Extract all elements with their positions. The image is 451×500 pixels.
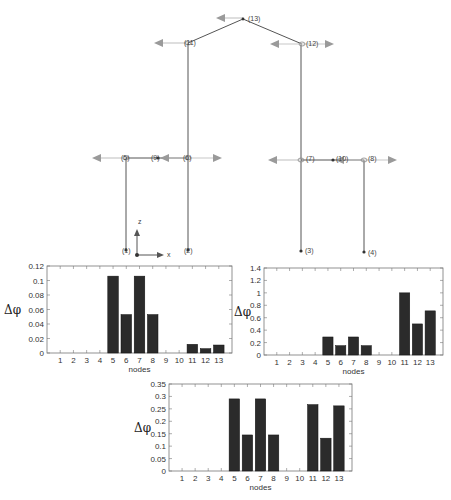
bar-node-12 [412, 324, 422, 355]
x-tick-label: 3 [206, 474, 211, 483]
x-axis-title: nodes [129, 365, 151, 374]
y-tick-label: 0.6 [250, 314, 262, 323]
frame-members [126, 19, 364, 252]
x-tick-label: 7 [351, 358, 356, 367]
y-tick-label: 0.4 [250, 326, 262, 335]
node-label-6: (6) [183, 154, 192, 162]
x-axis-label: x [167, 251, 171, 258]
bar-chart-right: 00.20.40.60.811.21.412345678910111213nod… [230, 258, 451, 376]
x-tick-label: 9 [164, 356, 169, 365]
bar-node-12 [321, 438, 331, 471]
x-tick-label: 7 [258, 474, 263, 483]
y-tick-label: 0.1 [33, 277, 45, 286]
y-tick-label: 0.1 [155, 442, 167, 451]
x-tick-label: 10 [387, 358, 396, 367]
y-tick-label: 0.05 [150, 455, 166, 464]
x-tick-label: 13 [214, 356, 223, 365]
bar-node-12 [200, 349, 211, 353]
z-axis-arrow-icon [134, 229, 140, 236]
arrow-right-icon [388, 156, 397, 164]
y-tick-label: 0.02 [28, 335, 44, 344]
y-tick-label: 0.3 [155, 392, 167, 401]
frame-structure-diagram: (1) (2) (3) (4) (5) (6) (7) (8) (9) (10)… [0, 0, 451, 262]
bar-node-6 [121, 315, 132, 353]
node-label-11: (11) [184, 39, 196, 47]
arrow-right-icon [213, 154, 222, 162]
y-tick-label: 0.8 [250, 301, 262, 310]
bar-node-6 [242, 435, 252, 471]
node-markers [124, 18, 365, 254]
bar-node-13 [425, 311, 435, 355]
bar-node-8 [268, 435, 278, 471]
x-tick-label: 13 [334, 474, 343, 483]
x-tick-label: 6 [124, 356, 129, 365]
x-tick-label: 1 [275, 358, 280, 367]
y-tick-label: 1.4 [250, 264, 262, 273]
bar-chart-bottom: 00.050.10.150.20.250.30.3512345678910111… [130, 378, 355, 500]
x-tick-label: 4 [98, 356, 103, 365]
node-label-13: (13) [248, 15, 260, 23]
node-label-2: (2) [184, 247, 193, 255]
x-tick-label: 5 [232, 474, 237, 483]
bar-node-11 [400, 293, 410, 355]
x-tick-label: 8 [364, 358, 369, 367]
bar-node-5 [229, 399, 239, 471]
y-tick-label: 0.15 [150, 430, 166, 439]
arrow-left-icon [268, 156, 277, 164]
x-axis-title: nodes [250, 483, 272, 492]
x-tick-label: 9 [377, 358, 382, 367]
x-tick-label: 1 [58, 356, 63, 365]
node-label-9: (9) [151, 154, 160, 162]
x-tick-label: 2 [193, 474, 198, 483]
y-tick-label: 0.2 [250, 339, 262, 348]
y-tick-label: 1.2 [250, 276, 262, 285]
x-tick-label: 1 [180, 474, 185, 483]
bar-node-8 [361, 346, 371, 355]
y-tick-label: 0 [257, 351, 262, 360]
coordinate-axes: z x [134, 218, 171, 258]
x-tick-label: 11 [188, 356, 197, 365]
x-tick-label: 2 [287, 358, 292, 367]
x-tick-label: 11 [309, 474, 318, 483]
node-label-10: (10) [336, 155, 348, 163]
bar-node-13 [334, 406, 344, 471]
y-tick-label: 0.35 [150, 380, 166, 389]
x-tick-label: 3 [300, 358, 305, 367]
displacement-arrows [92, 14, 397, 164]
y-tick-label: 0.06 [28, 306, 44, 315]
y-tick-label: 0 [162, 467, 167, 476]
y-tick-label: 0.12 [28, 262, 44, 271]
bar-node-5 [323, 337, 333, 355]
x-tick-label: 10 [175, 356, 184, 365]
x-tick-label: 6 [338, 358, 343, 367]
x-tick-label: 4 [313, 358, 318, 367]
x-tick-label: 10 [295, 474, 304, 483]
bar-node-7 [134, 276, 145, 353]
x-tick-label: 7 [137, 356, 142, 365]
bar-node-13 [214, 345, 225, 353]
arrow-left-icon [216, 14, 225, 22]
x-tick-label: 8 [271, 474, 276, 483]
node-label-12: (12) [306, 40, 318, 48]
x-tick-label: 12 [413, 358, 422, 367]
y-tick-label: 0.25 [150, 405, 166, 414]
x-tick-label: 13 [426, 358, 435, 367]
bar-node-11 [187, 344, 198, 353]
x-tick-label: 4 [219, 474, 224, 483]
arrow-left-icon [92, 154, 101, 162]
node-label-7: (7) [306, 155, 315, 163]
node-label-5: (5) [121, 154, 130, 162]
x-tick-label: 12 [321, 474, 330, 483]
y-tick-label: 0.04 [28, 320, 44, 329]
x-tick-label: 5 [326, 358, 331, 367]
node-label-3: (3) [305, 247, 314, 255]
x-tick-label: 9 [284, 474, 289, 483]
x-axis-title: nodes [343, 367, 365, 376]
y-tick-label: 0.08 [28, 291, 44, 300]
y-axis-title: Δφ [134, 421, 151, 435]
bar-node-8 [147, 315, 158, 353]
y-tick-label: 0.2 [155, 417, 167, 426]
arrow-left-icon [270, 40, 279, 48]
bar-node-11 [308, 405, 318, 471]
z-axis-label: z [138, 218, 142, 225]
